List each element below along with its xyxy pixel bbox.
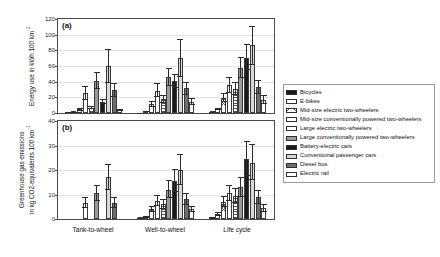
error-bar bbox=[240, 57, 241, 78]
error-bar bbox=[140, 113, 141, 114]
error-bar bbox=[246, 141, 247, 177]
error-bar bbox=[263, 204, 264, 212]
error-bar bbox=[191, 206, 192, 212]
error-bar bbox=[223, 93, 224, 101]
error-bar bbox=[108, 49, 109, 83]
legend-item[interactable]: Mid-size conventionally powered two-whee… bbox=[286, 115, 431, 124]
error-bar bbox=[157, 195, 158, 207]
legend-swatch-icon bbox=[286, 172, 297, 177]
error-bar bbox=[174, 169, 175, 192]
error-bar bbox=[91, 106, 92, 110]
error-bar bbox=[145, 216, 146, 218]
error-bar bbox=[68, 112, 69, 113]
legend: BicyclesE-bikesMid-size electric two-whe… bbox=[283, 84, 435, 183]
y-axis-tick-label: 60 bbox=[48, 63, 55, 69]
legend-item-label: E-bikes bbox=[300, 99, 320, 105]
gridline bbox=[58, 35, 274, 36]
error-bar bbox=[223, 196, 224, 207]
gridline bbox=[58, 50, 274, 51]
y-axis-tick-mark bbox=[55, 146, 58, 147]
legend-item-label: Battery-electric cars bbox=[300, 144, 352, 150]
legend-item[interactable]: Diesel bus bbox=[286, 161, 431, 170]
figure-container: Energy use in kWh 100 km-1 Greenhouse ga… bbox=[0, 0, 440, 257]
error-bar bbox=[252, 26, 253, 65]
panel-a-axis-title-text: Energy use in kWh 100 km bbox=[28, 30, 35, 105]
error-bar bbox=[180, 39, 181, 77]
error-bar bbox=[229, 185, 230, 200]
legend-item[interactable]: Mid-size electric two-wheelers bbox=[286, 106, 431, 115]
panel-b-axis-title: Greenhouse gas emissions in kg CO2-equiv… bbox=[18, 120, 37, 220]
panel-b-plot-area: 010203040 bbox=[58, 121, 274, 219]
legend-swatch-icon bbox=[286, 154, 297, 159]
legend-item[interactable]: Bicycles bbox=[286, 88, 431, 97]
gridline bbox=[58, 170, 274, 171]
error-bar bbox=[217, 212, 218, 216]
legend-item[interactable]: Electric rail bbox=[286, 170, 431, 179]
legend-swatch-icon bbox=[286, 117, 297, 122]
y-axis-tick-label: 20 bbox=[48, 94, 55, 100]
legend-swatch-icon bbox=[286, 108, 297, 113]
panel-b-axis-title-line2: in kg CO2-equivalents 100 km bbox=[28, 130, 35, 214]
error-bar bbox=[151, 206, 152, 212]
legend-swatch-icon bbox=[286, 126, 297, 131]
error-bar bbox=[73, 112, 74, 113]
panel-b: (b) 010203040 bbox=[57, 120, 275, 220]
error-bar bbox=[163, 199, 164, 208]
y-axis-tick-mark bbox=[55, 97, 58, 98]
error-bar bbox=[85, 86, 86, 99]
legend-item-label: Electric rail bbox=[300, 171, 329, 177]
legend-item[interactable]: Large electric two-wheelers bbox=[286, 124, 431, 133]
x-axis-label-life-cycle: Life cycle bbox=[223, 226, 251, 233]
error-bar bbox=[252, 144, 253, 180]
error-bar bbox=[229, 77, 230, 93]
error-bar bbox=[258, 80, 259, 94]
legend-item[interactable]: E-bikes bbox=[286, 97, 431, 106]
legend-item[interactable]: Conventional passenger cars bbox=[286, 152, 431, 161]
panel-a-axis-title: Energy use in kWh 100 km-1 bbox=[26, 20, 36, 112]
error-bar bbox=[217, 108, 218, 111]
legend-swatch-icon bbox=[286, 163, 297, 168]
y-axis-tick-mark bbox=[55, 82, 58, 83]
y-axis-tick-mark bbox=[55, 121, 58, 122]
legend-swatch-icon bbox=[286, 145, 297, 150]
legend-item-label: Bicycles bbox=[300, 90, 322, 96]
error-bar bbox=[191, 98, 192, 105]
y-axis-tick-label: 100 bbox=[45, 32, 55, 38]
error-bar bbox=[235, 82, 236, 95]
legend-swatch-icon bbox=[286, 136, 297, 141]
y-axis-tick-mark bbox=[55, 170, 58, 171]
error-bar bbox=[168, 68, 169, 86]
y-axis-tick-mark bbox=[55, 66, 58, 67]
error-bar bbox=[186, 193, 187, 205]
error-bar bbox=[246, 44, 247, 70]
x-axis-label-tank-to-wheel: Tank-to-wheel bbox=[72, 226, 113, 233]
error-bar bbox=[119, 109, 120, 111]
y-axis-tick-label: 40 bbox=[48, 118, 55, 124]
error-bar bbox=[102, 99, 103, 104]
error-bar bbox=[108, 164, 109, 190]
error-bar bbox=[168, 180, 169, 198]
error-bar bbox=[263, 95, 264, 103]
error-bar bbox=[258, 190, 259, 204]
legend-item[interactable]: Battery-electric cars bbox=[286, 143, 431, 152]
gridline bbox=[58, 146, 274, 147]
y-axis-tick-label: 40 bbox=[48, 79, 55, 85]
y-axis-tick-label: 10 bbox=[48, 192, 55, 198]
error-bar bbox=[96, 185, 97, 201]
error-bar bbox=[114, 83, 115, 96]
gridline bbox=[58, 66, 274, 67]
error-bar bbox=[186, 82, 187, 95]
x-axis-label-well-to-wheel: Well-to-wheel bbox=[145, 226, 185, 233]
error-bar bbox=[140, 218, 141, 219]
legend-item-label: Large electric two-wheelers bbox=[300, 126, 372, 132]
y-axis-tick-mark bbox=[55, 219, 58, 220]
error-bar bbox=[79, 108, 80, 111]
panel-a-axis-title-sup: -1 bbox=[26, 26, 31, 30]
error-bar bbox=[96, 72, 97, 89]
error-bar bbox=[180, 154, 181, 185]
legend-item[interactable]: Large conventionally powered two-wheeler… bbox=[286, 133, 431, 142]
legend-item-label: Mid-size electric two-wheelers bbox=[300, 108, 379, 114]
error-bar bbox=[212, 217, 213, 218]
error-bar bbox=[174, 74, 175, 88]
y-axis-tick-mark bbox=[55, 19, 58, 20]
